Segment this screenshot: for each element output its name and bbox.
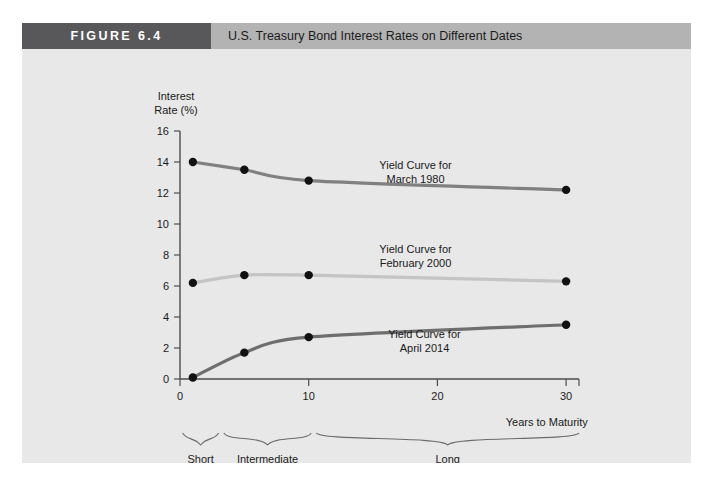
y-axis-tick-label: 6	[163, 280, 169, 292]
series-point	[305, 271, 313, 279]
y-axis-tick-label: 16	[157, 125, 169, 137]
series-point	[189, 158, 197, 166]
x-axis-tick-label: 10	[303, 390, 315, 402]
series-annotation-0: March 1980	[386, 173, 444, 185]
maturity-bracket-2	[316, 433, 579, 445]
figure-panel: FIGURE 6.4 U.S. Treasury Bond Interest R…	[22, 23, 691, 463]
series-line-2	[193, 325, 566, 378]
x-axis-tick-label: 0	[177, 390, 183, 402]
y-axis-title: Interest	[158, 90, 195, 102]
series-point	[562, 277, 570, 285]
series-annotation-2: April 2014	[400, 342, 450, 354]
series-annotation-1: February 2000	[380, 257, 452, 269]
x-axis-tick-label: 30	[560, 390, 572, 402]
series-annotation-0: Yield Curve for	[379, 159, 452, 171]
series-point	[305, 333, 313, 341]
series-point	[562, 321, 570, 329]
series-point	[189, 279, 197, 287]
maturity-bracket-label-2: Long	[435, 453, 459, 463]
x-axis-title: Years to Maturity	[506, 416, 589, 428]
maturity-bracket-label-1: Intermediate	[237, 453, 298, 463]
y-axis-tick-label: 0	[163, 373, 169, 385]
series-annotation-2: Yield Curve for	[388, 328, 461, 340]
y-axis-tick-label: 10	[157, 218, 169, 230]
series-line-1	[193, 274, 566, 282]
maturity-bracket-1	[224, 433, 311, 445]
figure-title: U.S. Treasury Bond Interest Rates on Dif…	[228, 23, 522, 49]
y-axis-tick-label: 14	[157, 156, 169, 168]
y-axis-tick-label: 12	[157, 187, 169, 199]
series-point	[189, 373, 197, 381]
series-point	[240, 271, 248, 279]
series-point	[240, 348, 248, 356]
x-axis-tick-label: 20	[431, 390, 443, 402]
chart-plot-area: 0246810121416InterestRate (%)0102030Year…	[22, 49, 691, 463]
y-axis-tick-label: 4	[163, 311, 169, 323]
series-point	[562, 186, 570, 194]
series-point	[305, 176, 313, 184]
figure-number-tag: FIGURE 6.4	[22, 23, 211, 49]
series-annotation-1: Yield Curve for	[379, 243, 452, 255]
series-point	[240, 166, 248, 174]
maturity-bracket-0	[183, 433, 219, 445]
y-axis-title: Rate (%)	[154, 104, 197, 116]
maturity-bracket-label-0: Short	[187, 453, 213, 463]
yield-curve-chart: 0246810121416InterestRate (%)0102030Year…	[22, 49, 691, 463]
y-axis-tick-label: 2	[163, 342, 169, 354]
figure-root: FIGURE 6.4 U.S. Treasury Bond Interest R…	[0, 0, 713, 484]
y-axis-tick-label: 8	[163, 249, 169, 261]
figure-header-bar: FIGURE 6.4 U.S. Treasury Bond Interest R…	[22, 23, 691, 49]
